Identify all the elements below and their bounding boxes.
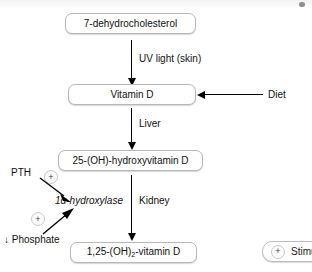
arrow-pth-to-enzyme [38, 176, 74, 204]
regulator-label-pth: PTH [11, 168, 31, 178]
edge-label-uv-light: UV light (skin) [139, 54, 201, 64]
diagram-canvas: 7-dehydrocholesterol UV light (skin) Vit… [0, 0, 312, 272]
arrow-kidney [131, 175, 132, 233]
node-25-oh-hydroxyvitamin-d-label: 25-(OH)-hydroxyvitamin D [72, 156, 188, 166]
arrow-phosphate-to-enzyme [40, 206, 76, 236]
node-7-dehydrocholesterol: 7-dehydrocholesterol [65, 13, 196, 34]
node-vitamin-d: Vitamin D [68, 84, 196, 105]
legend-label: Stimulates [291, 246, 312, 257]
legend-stimulates: + Stimulates [262, 241, 312, 262]
edge-label-kidney: Kidney [139, 196, 170, 206]
edge-label-diet: Diet [268, 90, 286, 100]
legend-plus-icon: + [271, 245, 285, 259]
node-1-25-oh2-suffix: -vitamin D [135, 246, 180, 257]
node-1-25-oh2-prefix: 1,25-(OH) [87, 246, 131, 257]
node-1-25-oh2-vitamin-d-label: 1,25-(OH)2-vitamin D [87, 247, 180, 258]
edge-label-liver: Liver [139, 119, 161, 129]
node-vitamin-d-label: Vitamin D [110, 90, 153, 100]
legend-plus-symbol: + [275, 247, 280, 256]
scan-band-artifact [0, 0, 312, 9]
scan-speck-artifact [299, 2, 305, 7]
arrow-liver [131, 108, 132, 142]
arrow-uv-light [131, 40, 132, 78]
node-7-dehydrocholesterol-label: 7-dehydrocholesterol [84, 19, 177, 29]
node-25-oh-hydroxyvitamin-d: 25-(OH)-hydroxyvitamin D [58, 150, 203, 171]
node-1-25-oh2-vitamin-d: 1,25-(OH)2-vitamin D [70, 242, 197, 263]
regulator-label-phosphate: ↓ Phosphate [4, 235, 60, 245]
arrow-diet [205, 94, 263, 95]
